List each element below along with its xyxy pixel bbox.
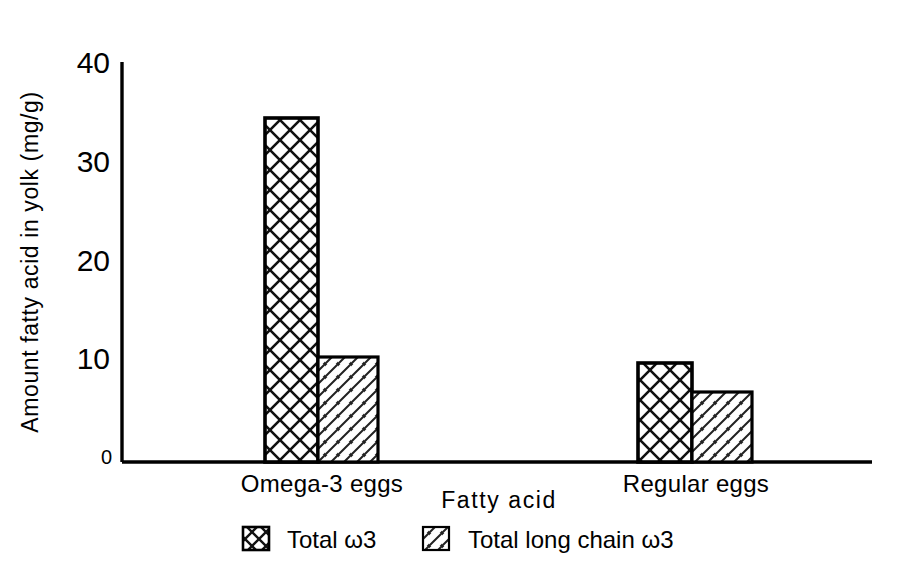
legend-swatch-crosshatch-icon	[243, 527, 269, 550]
y-tick-label-30: 30	[77, 145, 110, 178]
legend-label-total-w3: Total ω3	[287, 526, 376, 553]
x-category-label-omega3: Omega-3 eggs	[241, 470, 403, 497]
y-tick-label-0: 0	[101, 446, 112, 468]
chart-legend: Total ω3 Total long chain ω3	[243, 526, 674, 553]
bar-omega3-total-w3	[265, 118, 318, 462]
y-axis-title: Amount fatty acid in yolk (mg/g)	[17, 91, 43, 432]
x-category-label-regular: Regular eggs	[623, 470, 769, 497]
bar-omega3-long-chain-w3	[318, 357, 378, 462]
bar-regular-long-chain-w3	[692, 392, 752, 462]
bar-regular-total-w3	[638, 363, 692, 462]
legend-label-total-long-chain-w3: Total long chain ω3	[468, 526, 674, 553]
bar-chart-svg: 40 30 20 10 0 Amount fatty acid in yolk …	[0, 0, 902, 586]
y-tick-label-20: 20	[77, 244, 110, 277]
chart-figure: 40 30 20 10 0 Amount fatty acid in yolk …	[0, 0, 902, 586]
y-tick-label-40: 40	[77, 46, 110, 79]
x-axis-title: Fatty acid	[441, 487, 557, 513]
legend-swatch-diagonal-icon	[423, 527, 449, 550]
y-tick-label-10: 10	[77, 342, 110, 375]
